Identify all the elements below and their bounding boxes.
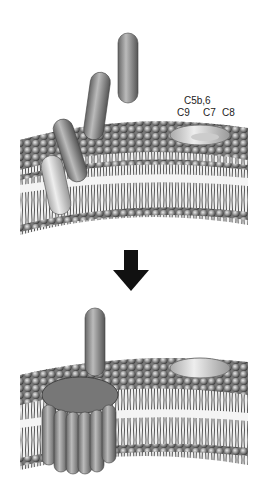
label-c8: C8 bbox=[222, 108, 235, 118]
mac-pore-complex bbox=[42, 308, 118, 474]
down-arrow bbox=[113, 250, 149, 291]
label-c5b6: C5b,6 bbox=[184, 96, 211, 106]
mac-diagram bbox=[0, 0, 263, 496]
label-c7: C7 bbox=[203, 108, 216, 118]
label-c9: C9 bbox=[177, 108, 190, 118]
